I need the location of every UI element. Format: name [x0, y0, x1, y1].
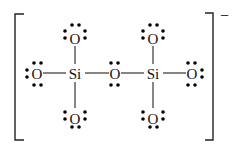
atom-o-left: O [32, 66, 43, 82]
atom-o-right: O [187, 66, 198, 82]
atom-o-bottom-left: O [70, 111, 81, 127]
atom-si-left: Si [69, 66, 82, 82]
charge-label: − [220, 7, 229, 24]
atom-o-bridge: O [110, 66, 121, 82]
atom-o-bottom-right: O [148, 111, 159, 127]
atom-o-top-left: O [70, 31, 81, 47]
atoms: O O O Si O Si O O O [32, 31, 198, 127]
atom-o-top-right: O [148, 31, 159, 47]
lewis-structure-diagram: − O O O Si O Si O O O [0, 0, 238, 149]
left-bracket [15, 14, 24, 140]
right-bracket [205, 13, 213, 140]
atom-si-right: Si [147, 66, 160, 82]
